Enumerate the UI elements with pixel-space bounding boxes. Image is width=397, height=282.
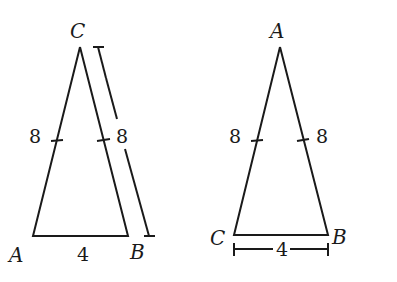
base-dimension-label: 4	[276, 238, 288, 260]
right-triangle: A C B 8 8 4	[210, 19, 347, 260]
vertex-label-c: C	[70, 19, 85, 43]
left-side-tick	[51, 140, 63, 141]
right-side-tick	[97, 139, 110, 141]
base-label: 4	[77, 243, 89, 265]
isosceles-triangles-figure: C A B 8 8 4 A C B 8 8 4	[0, 0, 397, 282]
vertex-label-c: C	[210, 226, 225, 250]
dimension-line-upper	[98, 47, 106, 78]
left-triangle: C A B 8 8 4	[7, 19, 155, 267]
left-side-tick	[251, 140, 263, 141]
left-triangle-outline	[33, 47, 128, 236]
dimension-label: 8	[116, 125, 128, 147]
dimension-line-lower	[125, 149, 149, 236]
side-label-left: 8	[29, 125, 41, 147]
side-label-right: 8	[316, 125, 328, 147]
vertex-label-a: A	[7, 243, 23, 267]
right-triangle-outline	[234, 47, 328, 235]
vertex-label-b: B	[331, 225, 347, 249]
vertex-label-b: B	[129, 240, 145, 264]
vertex-label-a: A	[268, 19, 284, 43]
right-side-tick	[297, 139, 309, 141]
dimension-line-upper-b	[106, 78, 117, 119]
side-label-left: 8	[229, 125, 241, 147]
